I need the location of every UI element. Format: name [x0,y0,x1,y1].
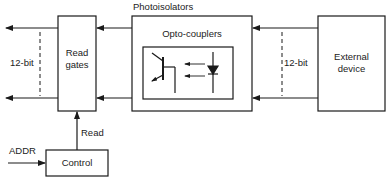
control-label: Control [46,157,108,168]
read-gates-label-line2: gates [58,59,96,70]
left-bus-width-label: 12-bit [10,57,34,68]
right-bus-width-label: 12-bit [284,57,308,68]
external-device-label-line2: device [318,63,385,74]
optocoupler-inner-box [143,47,233,99]
read-signal-label: Read [81,127,104,138]
optocouplers-label: Opto-couplers [132,28,252,39]
led-diode-icon [208,52,218,93]
photoisolators-title: Photoisolators [133,1,193,12]
external-device-label-line1: External [318,51,385,62]
addr-signal-label: ADDR [9,145,36,156]
phototransistor-icon [152,53,175,93]
read-gates-label-line1: Read [58,47,96,58]
